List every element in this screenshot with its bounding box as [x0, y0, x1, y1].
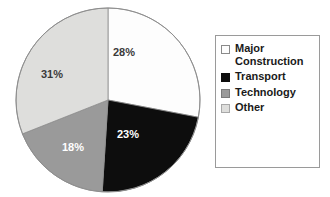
chart-legend: Major ConstructionTransportTechnologyOth…: [215, 35, 320, 168]
legend-item-label: Other: [235, 101, 264, 114]
legend-item[interactable]: Other: [221, 101, 316, 114]
pie-chart-svg: [0, 0, 210, 197]
pie-slice-group: [16, 8, 200, 192]
legend-item-label: Transport: [235, 70, 286, 83]
pie-chart-figure: 28%23%18%31% Major ConstructionTransport…: [0, 0, 330, 197]
legend-item[interactable]: Technology: [221, 86, 316, 99]
pie-chart-plot-area: 28%23%18%31%: [0, 0, 210, 197]
legend-swatch-icon: [221, 89, 230, 98]
legend-item-label: Technology: [235, 86, 296, 99]
legend-item[interactable]: Major Construction: [221, 42, 316, 67]
legend-item-list: Major ConstructionTransportTechnologyOth…: [221, 42, 316, 117]
legend-swatch-icon: [221, 73, 230, 82]
legend-swatch-icon: [221, 45, 230, 54]
pie-slice: [108, 8, 200, 117]
legend-item-label: Major Construction: [235, 42, 316, 67]
legend-swatch-icon: [221, 104, 230, 113]
legend-item[interactable]: Transport: [221, 70, 316, 83]
